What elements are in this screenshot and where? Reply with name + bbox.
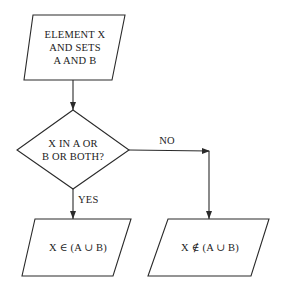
- decision-node-label: X IN A OR B OR BOTH?: [23, 137, 123, 163]
- decision-line-2: B OR BOTH?: [23, 150, 123, 163]
- start-line-1: ELEMENT X: [30, 28, 120, 41]
- decision-line-1: X IN A OR: [23, 137, 123, 150]
- start-line-2: AND SETS: [30, 41, 120, 54]
- start-line-3: A AND B: [30, 54, 120, 67]
- yes-result-label: X ∈ (A ∪ B): [34, 241, 122, 254]
- start-node-label: ELEMENT X AND SETS A AND B: [30, 28, 120, 67]
- edge-label-yes: YES: [78, 193, 108, 206]
- no-result-label: X ∉ (A ∪ B): [164, 241, 256, 254]
- edge-no: [129, 150, 209, 151]
- edge-label-no: NO: [152, 134, 182, 147]
